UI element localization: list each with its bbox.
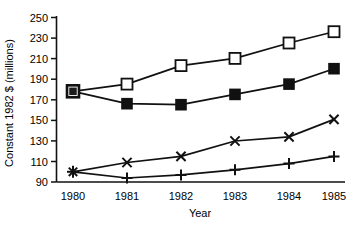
data-point-open-square-1982 (176, 60, 187, 71)
data-point-open-square-1984 (284, 38, 295, 49)
markers-filled-square (122, 64, 339, 110)
data-point-plus-1985 (329, 151, 340, 162)
x-axis-title: Year (189, 207, 212, 219)
series-line-plus (73, 156, 334, 178)
x-axis-ticks: 1980 1981 1982 1983 1984 1985 (61, 190, 346, 202)
data-point-open-square-1983 (230, 53, 241, 64)
data-point-plus-1984 (284, 158, 295, 169)
x-tick-label-1984: 1984 (277, 190, 301, 202)
data-point-plus-1983 (230, 164, 241, 175)
y-axis-title: Constant 1982 $ (millions) (3, 39, 15, 167)
x-tick-label-1983: 1983 (223, 190, 247, 202)
x-tick-label-1985: 1985 (322, 190, 346, 202)
markers-open-square (122, 26, 340, 89)
y-tick-label-90: 90 (36, 176, 48, 188)
y-tick-label-150: 150 (30, 114, 48, 126)
y-tick-label-170: 170 (30, 94, 48, 106)
chart-container: Constant 1982 $ (millions) 250 230 210 1… (0, 0, 357, 229)
combined-square-inner (69, 87, 77, 95)
y-tick-label-230: 230 (30, 32, 48, 44)
x-tick-label-1980: 1980 (61, 190, 85, 202)
data-point-plus-1982 (176, 169, 187, 180)
y-tick-label-250: 250 (30, 12, 48, 24)
y-tick-label-210: 210 (30, 53, 48, 65)
data-point-open-square-1981 (122, 79, 133, 90)
data-point-filled-square-1983 (230, 89, 240, 99)
x-tick-label-1982: 1982 (169, 190, 193, 202)
data-point-combined-star-1980 (67, 166, 79, 178)
y-axis-ticks: 250 230 210 190 170 150 130 110 90 (30, 12, 57, 189)
y-tick-label-190: 190 (30, 73, 48, 85)
data-point-x-1985 (329, 115, 338, 124)
y-tick-label-130: 130 (30, 135, 48, 147)
markers-plus (122, 151, 340, 184)
data-point-filled-square-1982 (176, 100, 186, 110)
data-point-combined-squares-1980 (67, 85, 80, 98)
line-chart-svg: Constant 1982 $ (millions) 250 230 210 1… (0, 0, 357, 229)
x-tick-label-1981: 1981 (115, 190, 139, 202)
data-point-filled-square-1984 (284, 79, 294, 89)
y-tick-label-110: 110 (30, 156, 48, 168)
data-point-open-square-1985 (329, 26, 340, 37)
data-point-filled-square-1981 (122, 99, 132, 109)
series-line-x (73, 119, 334, 171)
data-point-filled-square-1985 (329, 64, 339, 74)
